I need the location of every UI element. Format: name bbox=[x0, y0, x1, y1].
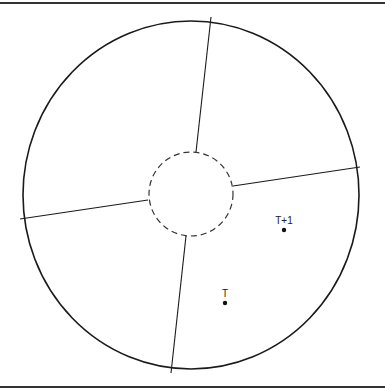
diagram-canvas: T+1 T bbox=[0, 0, 385, 389]
divider-left bbox=[20, 200, 148, 219]
point-t-plus-1 bbox=[282, 228, 286, 232]
outer-circle bbox=[23, 21, 359, 369]
point-t-label: T bbox=[222, 288, 228, 299]
diagram-svg: T+1 T bbox=[0, 0, 385, 389]
point-t bbox=[223, 301, 227, 305]
divider-right bbox=[233, 167, 360, 186]
point-t-plus-1-label: T+1 bbox=[275, 215, 293, 226]
divider-top bbox=[196, 17, 211, 152]
inner-dashed-circle bbox=[149, 152, 233, 236]
divider-bottom bbox=[171, 236, 186, 373]
